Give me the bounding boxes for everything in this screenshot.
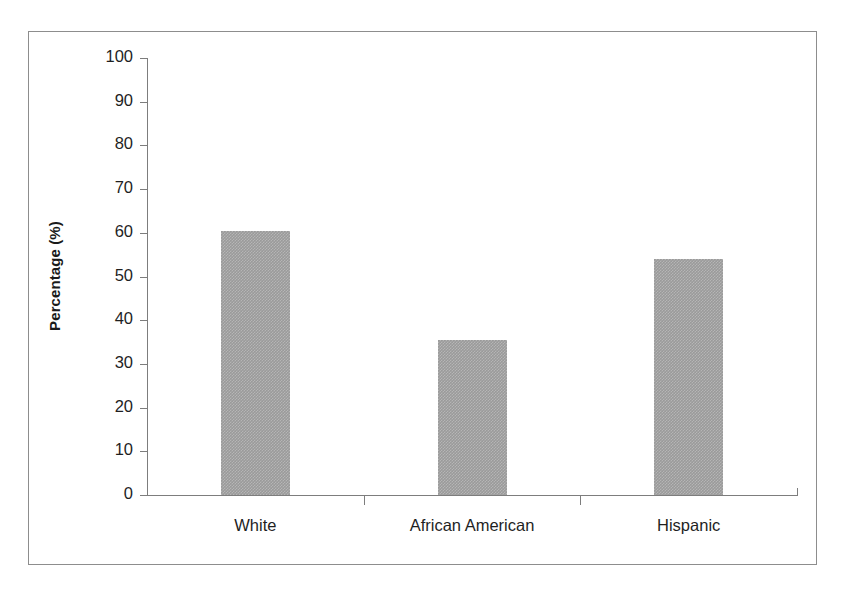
y-tick-mark: [140, 233, 148, 234]
y-tick-mark: [140, 451, 148, 452]
bar: [654, 259, 723, 495]
chart-figure: Percentage (%) 0102030405060708090100 Wh…: [0, 0, 845, 592]
plot-area: 0102030405060708090100 WhiteAfrican Amer…: [0, 0, 845, 592]
x-axis-line: [147, 495, 797, 496]
y-tick-mark: [140, 320, 148, 321]
x-category-divider: [580, 496, 581, 505]
x-tick-label: White: [145, 516, 365, 535]
x-axis-end-cap: [797, 488, 798, 496]
y-tick-mark: [140, 364, 148, 365]
y-tick-mark: [140, 102, 148, 103]
y-tick-mark: [140, 189, 148, 190]
bar: [438, 340, 507, 495]
x-tick-label: Hispanic: [579, 516, 799, 535]
x-axis-end-cap: [147, 488, 148, 496]
y-tick-mark: [140, 277, 148, 278]
y-tick-mark: [140, 145, 148, 146]
y-tick-mark: [140, 58, 148, 59]
x-tick-label: African American: [362, 516, 582, 535]
y-tick-mark: [140, 408, 148, 409]
bar: [221, 231, 290, 495]
x-category-divider: [364, 496, 365, 505]
